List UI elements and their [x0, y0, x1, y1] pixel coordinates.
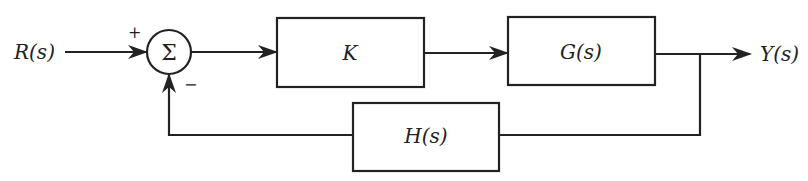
- block-diagram: R(s) + Σ − K G(s) Y(s) H(s): [0, 0, 808, 181]
- plant-block-label: G(s): [560, 40, 602, 64]
- sigma-symbol: Σ: [161, 40, 177, 65]
- minus-sign: −: [184, 75, 197, 94]
- feedback-block-label: H(s): [403, 124, 447, 148]
- plus-sign: +: [128, 23, 141, 42]
- summing-junction: Σ: [147, 30, 191, 74]
- controller-block: K: [277, 18, 424, 87]
- output-label: Y(s): [760, 42, 799, 66]
- plant-block: G(s): [508, 17, 655, 85]
- feedback-block: H(s): [353, 103, 499, 171]
- input-label: R(s): [13, 40, 55, 64]
- controller-block-label: K: [342, 41, 359, 65]
